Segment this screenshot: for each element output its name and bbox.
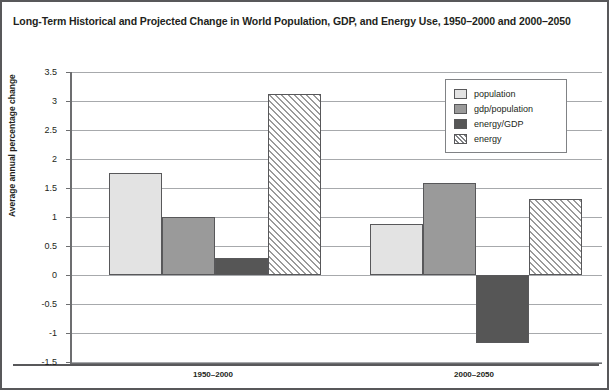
y-tick-mark (66, 246, 72, 247)
chart-figure: Long-Term Historical and Projected Chang… (0, 0, 609, 390)
legend-item-population[interactable]: population (454, 86, 559, 101)
legend-label-population: population (474, 89, 516, 99)
chart-title: Long-Term Historical and Projected Chang… (13, 15, 599, 27)
bar-gdp-population-group-1[interactable] (162, 217, 215, 275)
legend-label-energy: energy (474, 134, 502, 144)
y-tick-mark (66, 130, 72, 131)
y-tick-mark (66, 275, 72, 276)
y-tick-mark (66, 304, 72, 305)
y-tick-label: -1 (11, 328, 57, 338)
legend-label-energy-gdp: energy/GDP (474, 119, 524, 129)
y-tick-mark (66, 72, 72, 73)
legend-swatch-energy-gdp-icon (454, 119, 467, 129)
legend-item-energy[interactable]: energy (454, 131, 559, 146)
y-tick-label: -1.5 (11, 357, 57, 367)
legend-label-gdp-population: gdp/population (474, 104, 533, 114)
y-tick-label: 3 (11, 96, 57, 106)
y-tick-label: 1.5 (11, 183, 57, 193)
bar-gdp-population-group-2[interactable] (423, 183, 476, 275)
y-tick-label: 0.5 (11, 241, 57, 251)
y-tick-label: 1 (11, 212, 57, 222)
legend-item-gdp-population[interactable]: gdp/population (454, 101, 559, 116)
gridline (72, 159, 602, 160)
y-tick-mark (66, 188, 72, 189)
y-tick-mark (66, 217, 72, 218)
x-axis-line (13, 364, 599, 366)
y-tick-label: 2 (11, 154, 57, 164)
y-tick-label: -0.5 (11, 299, 57, 309)
bar-population-group-2[interactable] (370, 224, 423, 275)
y-tick-mark (66, 362, 72, 363)
bar-energy-group-2[interactable] (529, 199, 582, 275)
bar-energy-group-1[interactable] (268, 94, 321, 275)
y-tick-label: 2.5 (11, 125, 57, 135)
gridline (72, 362, 602, 363)
x-tick-label: 1950–2000 (193, 370, 233, 379)
y-tick-mark (66, 101, 72, 102)
x-tick-label: 2000–2050 (454, 370, 494, 379)
bar-population-group-1[interactable] (109, 173, 162, 275)
bar-energy-gdp-group-2[interactable] (476, 275, 529, 343)
legend-swatch-population-icon (454, 89, 467, 99)
legend-swatch-gdp-population-icon (454, 104, 467, 114)
chart-legend: population gdp/population energy/GDP ene… (445, 79, 567, 153)
bar-energy-gdp-group-1[interactable] (215, 258, 268, 275)
legend-swatch-energy-icon (454, 134, 467, 144)
y-tick-label: 3.5 (11, 67, 57, 77)
y-tick-label: 0 (11, 270, 57, 280)
y-tick-mark (66, 159, 72, 160)
legend-item-energy-gdp[interactable]: energy/GDP (454, 116, 559, 131)
y-tick-mark (66, 333, 72, 334)
gridline (72, 72, 602, 73)
